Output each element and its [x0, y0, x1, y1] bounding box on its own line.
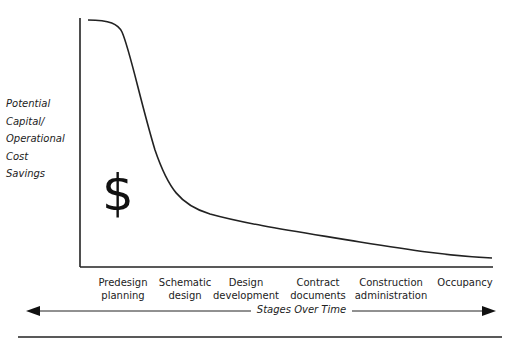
- stage-label-predesign: Predesignplanning: [98, 276, 147, 302]
- y-label-line: Operational: [6, 130, 65, 148]
- stage-label-construction-administration: Constructionadministration: [355, 276, 428, 302]
- y-label-line: Capital/: [6, 113, 65, 131]
- stage-label-contract-documents: Contractdocuments: [290, 276, 346, 302]
- stage-label-occupancy: Occupancy: [437, 276, 492, 289]
- y-axis-label: Potential Capital/ Operational Cost Savi…: [6, 95, 65, 183]
- y-label-line: Savings: [6, 165, 65, 183]
- x-axis-label: Stages Over Time: [42, 304, 519, 315]
- chart: Potential Capital/ Operational Cost Savi…: [0, 0, 519, 346]
- savings-curve: [88, 20, 492, 258]
- stage-label-schematic: Schematicdesign: [159, 276, 211, 302]
- arrow-left-icon: [26, 306, 40, 316]
- stage-label-design-development: Designdevelopment: [213, 276, 279, 302]
- x-axis-label-text: Stages Over Time: [251, 304, 352, 315]
- dollar-sign-icon: $: [102, 163, 134, 223]
- y-label-line: Cost: [6, 148, 65, 166]
- y-label-line: Potential: [6, 95, 65, 113]
